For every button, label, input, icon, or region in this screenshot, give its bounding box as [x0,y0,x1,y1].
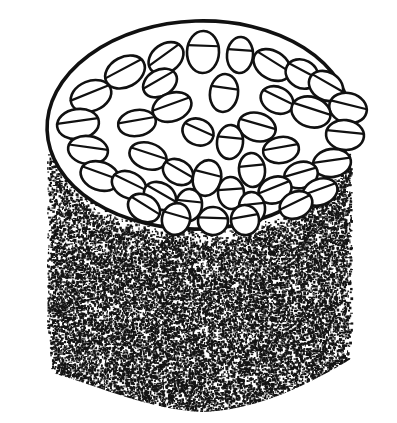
figure-root: Cylindrical specimen with elliptical top… [0,0,397,423]
oval-body [186,30,219,73]
oval-body-chord [188,45,219,46]
specimen-diagram-svg [0,0,397,423]
oval-body [226,36,254,74]
oval-body [198,206,229,235]
oval-body-outline [198,206,229,235]
oval-body-outline [186,30,219,73]
oval-body-outline [226,36,254,74]
oval-body-chord [198,217,227,218]
